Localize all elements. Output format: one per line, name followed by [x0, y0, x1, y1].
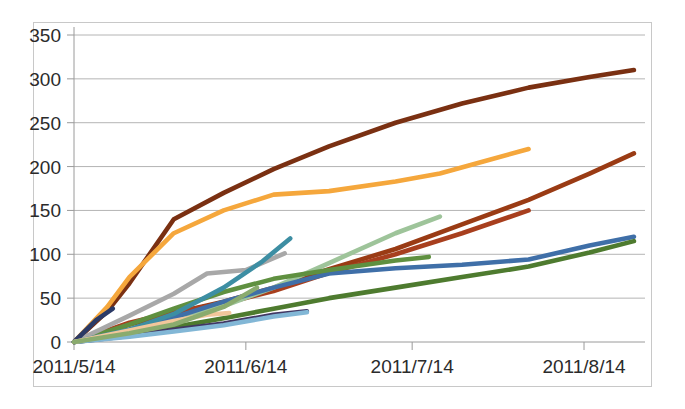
y-axis-tick-label: 250 — [29, 113, 61, 134]
chart-background — [0, 0, 685, 409]
y-axis-tick-label: 350 — [29, 25, 61, 46]
y-axis-tick-label: 150 — [29, 200, 61, 221]
y-axis-tick-label: 50 — [40, 288, 61, 309]
line-chart: 050100150200250300350 2011/5/142011/6/14… — [0, 0, 685, 409]
y-axis-tick-label: 100 — [29, 244, 61, 265]
x-axis-tick-label: 2011/7/14 — [371, 356, 455, 377]
y-axis-tick-label: 200 — [29, 157, 61, 178]
x-axis-tick-label: 2011/8/14 — [542, 356, 626, 377]
x-axis-tick-label: 2011/5/14 — [32, 356, 116, 377]
y-axis-tick-label: 300 — [29, 69, 61, 90]
y-axis-tick-label: 0 — [50, 332, 61, 353]
x-axis-tick-label: 2011/6/14 — [204, 356, 288, 377]
chart-container: 050100150200250300350 2011/5/142011/6/14… — [0, 0, 685, 409]
